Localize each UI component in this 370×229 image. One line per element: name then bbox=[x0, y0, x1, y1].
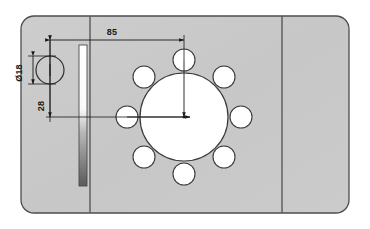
dimension-label-diameter: Ø18 bbox=[14, 64, 24, 82]
vertical-slot bbox=[79, 45, 87, 186]
bolt-hole-4 bbox=[213, 146, 235, 168]
bolt-hole-8 bbox=[133, 66, 155, 88]
bolt-hole-3 bbox=[230, 106, 252, 128]
engineering-drawing: 85 28 Ø18 bbox=[0, 0, 370, 229]
dimension-label-28: 28 bbox=[36, 101, 46, 111]
bolt-hole-2 bbox=[213, 66, 235, 88]
bolt-hole-6 bbox=[133, 146, 155, 168]
dimension-label-85: 85 bbox=[107, 27, 117, 37]
center-point bbox=[183, 116, 186, 119]
drawing-canvas: 85 28 Ø18 bbox=[0, 0, 370, 229]
bolt-hole-5 bbox=[173, 163, 195, 185]
